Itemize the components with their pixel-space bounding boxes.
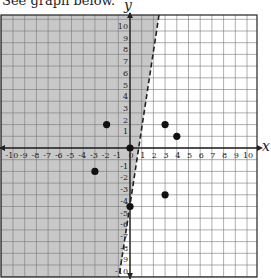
y-tick-label: 5 — [123, 81, 128, 90]
x-tick-label: -6 — [55, 151, 63, 160]
x-tick-label: 0 — [128, 151, 133, 160]
x-tick-label: 10 — [243, 151, 253, 160]
x-tick-label: -4 — [78, 151, 86, 160]
x-tick-label: -3 — [90, 151, 98, 160]
x-tick-label: 9 — [234, 151, 239, 160]
data-point — [162, 121, 169, 128]
x-tick-label: 2 — [152, 151, 157, 160]
y-tick-label: -1 — [120, 162, 128, 171]
data-point — [162, 191, 169, 198]
x-tick-label: 1 — [140, 151, 145, 160]
x-axis-arrow-right-icon — [257, 145, 263, 151]
x-tick-label: 3 — [164, 151, 169, 160]
y-tick-label: -2 — [120, 173, 128, 182]
coordinate-plane: -10-9-8-7-6-5-4-3-2-1012345678910-10-9-8… — [0, 0, 271, 280]
data-point — [91, 168, 98, 175]
data-point — [126, 203, 133, 210]
y-tick-label: 8 — [123, 45, 128, 54]
y-tick-label: -3 — [120, 185, 128, 194]
y-tick-label: -10 — [115, 267, 128, 276]
x-tick-label: -10 — [6, 151, 19, 160]
x-tick-label: -5 — [67, 151, 75, 160]
y-tick-label: 1 — [123, 127, 128, 136]
x-tick-label: -8 — [32, 151, 40, 160]
y-tick-label: -4 — [120, 197, 128, 206]
x-tick-label: 5 — [187, 151, 192, 160]
x-tick-label: 8 — [222, 151, 227, 160]
data-point — [173, 133, 180, 140]
data-point — [126, 144, 133, 151]
y-tick-label: 7 — [123, 57, 128, 66]
y-tick-label: 10 — [118, 22, 128, 31]
y-tick-label: 9 — [123, 34, 128, 43]
x-tick-label: 7 — [210, 151, 215, 160]
data-point — [103, 121, 110, 128]
y-tick-label: -5 — [120, 209, 128, 218]
x-tick-label: -1 — [113, 151, 121, 160]
y-tick-label: 2 — [123, 116, 128, 125]
y-tick-label: 3 — [123, 104, 128, 113]
x-tick-label: -9 — [20, 151, 28, 160]
x-tick-label: 6 — [199, 151, 204, 160]
x-tick-label: -2 — [102, 151, 110, 160]
x-tick-label: -7 — [43, 151, 51, 160]
y-tick-label: 4 — [123, 92, 128, 101]
x-tick-label: 4 — [175, 151, 180, 160]
y-tick-label: 6 — [123, 69, 128, 78]
